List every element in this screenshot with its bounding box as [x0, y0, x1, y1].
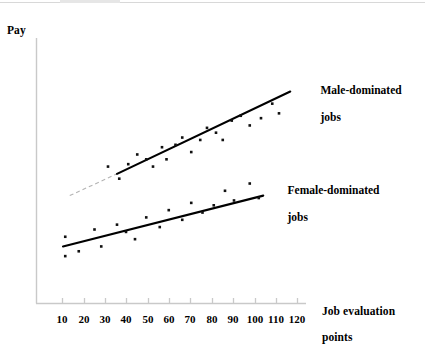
male-point-11 — [199, 139, 202, 142]
female-point-11 — [181, 219, 184, 222]
male-point-3 — [136, 153, 139, 156]
x-tick-label-30: 30 — [100, 313, 111, 325]
female-point-0 — [64, 235, 67, 238]
female-point-16 — [233, 199, 236, 202]
x-tick-label-110: 110 — [268, 313, 284, 325]
male-point-9 — [181, 136, 184, 139]
female-point-6 — [125, 231, 128, 234]
series-label-male-line2: jobs — [321, 111, 341, 123]
male-point-16 — [239, 114, 242, 117]
x-tick-label-100: 100 — [247, 313, 264, 325]
x-tick-label-80: 80 — [207, 313, 218, 325]
male-point-6 — [161, 146, 164, 149]
y-axis-label: Pay — [7, 24, 26, 37]
male-point-1 — [118, 177, 121, 180]
male-point-8 — [174, 144, 177, 147]
x-tick-label-40: 40 — [121, 313, 132, 325]
male-trendline-dashed-extension — [70, 174, 117, 196]
female-datapoints — [64, 182, 260, 257]
male-point-15 — [230, 119, 233, 122]
x-tick-label-90: 90 — [228, 313, 239, 325]
female-point-12 — [190, 202, 193, 205]
female-point-5 — [116, 223, 119, 226]
x-axis-title-line1: Job evaluation — [322, 305, 395, 317]
female-point-18 — [257, 197, 260, 200]
x-axis-title-line2: points — [322, 331, 353, 343]
male-point-12 — [206, 127, 209, 130]
series-label-male: Male-dominated jobs — [309, 70, 402, 138]
female-point-17 — [248, 182, 251, 185]
x-tick-label-10: 10 — [57, 313, 68, 325]
female-trendline — [63, 196, 263, 247]
female-point-13 — [201, 211, 204, 214]
series-female-dominated — [63, 182, 263, 257]
male-point-20 — [278, 112, 281, 115]
male-point-10 — [190, 151, 193, 154]
female-point-2 — [77, 250, 80, 253]
female-point-8 — [145, 216, 148, 219]
female-point-7 — [134, 238, 137, 241]
male-point-5 — [152, 165, 155, 168]
female-point-9 — [158, 226, 161, 229]
male-trendline — [117, 92, 290, 174]
male-point-14 — [221, 139, 224, 142]
x-tick-label-50: 50 — [143, 313, 154, 325]
female-point-3 — [93, 228, 96, 231]
x-tick-label-20: 20 — [79, 313, 90, 325]
figure-root: Pay Job evaluation points Male-dominated… — [0, 0, 425, 348]
series-male-dominated — [70, 92, 291, 196]
x-axis-ticks — [63, 298, 298, 303]
male-point-4 — [145, 158, 148, 161]
male-point-13 — [215, 131, 218, 134]
series-label-female-line2: jobs — [288, 211, 308, 223]
x-tick-label-60: 60 — [164, 313, 175, 325]
x-axis-title: Job evaluation points — [310, 292, 395, 348]
series-label-male-line1: Male-dominated — [321, 84, 402, 96]
female-point-4 — [100, 245, 103, 248]
female-point-15 — [224, 189, 227, 192]
x-tick-label-120: 120 — [289, 313, 306, 325]
x-tick-label-70: 70 — [185, 313, 196, 325]
male-point-17 — [248, 124, 251, 127]
female-point-1 — [64, 255, 67, 258]
series-label-female: Female-dominated jobs — [276, 170, 379, 238]
male-point-0 — [107, 165, 110, 168]
male-datapoints — [107, 102, 281, 180]
male-point-19 — [271, 102, 274, 105]
series-label-female-line1: Female-dominated — [288, 184, 380, 196]
male-point-2 — [127, 163, 130, 166]
male-point-7 — [165, 158, 168, 161]
female-point-14 — [212, 204, 215, 207]
female-point-10 — [167, 209, 170, 212]
male-point-18 — [260, 117, 263, 120]
